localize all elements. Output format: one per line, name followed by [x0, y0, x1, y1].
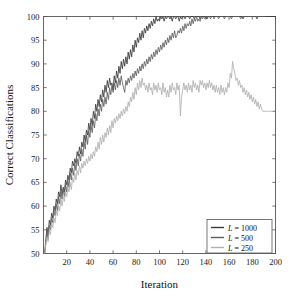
- x-tick-label: 120: [176, 257, 189, 267]
- y-tick-label: 100: [27, 12, 40, 22]
- x-tick-label: 40: [86, 257, 95, 267]
- plot-area: 2040608010012014016018020050556065707580…: [3, 12, 282, 291]
- y-tick-label: 60: [31, 201, 40, 211]
- legend-label-0: L = 1000: [227, 224, 257, 233]
- y-tick-label: 75: [31, 130, 40, 140]
- x-tick-label: 20: [62, 257, 71, 267]
- x-tick-label: 80: [132, 257, 141, 267]
- y-tick-label: 85: [31, 83, 40, 93]
- x-axis-title: Iteration: [141, 278, 179, 290]
- y-tick-label: 50: [31, 249, 40, 259]
- x-tick-label: 100: [153, 257, 166, 267]
- y-tick-label: 55: [31, 225, 40, 235]
- y-axis-title: Correct Classifications: [3, 85, 15, 186]
- chart-figure: 2040608010012014016018020050556065707580…: [0, 0, 303, 306]
- legend: L = 1000L = 500L = 250: [207, 220, 272, 254]
- legend-label-2: L = 250: [227, 244, 253, 253]
- y-tick-label: 65: [31, 177, 40, 187]
- x-tick-label: 140: [200, 257, 213, 267]
- x-tick-label: 60: [109, 257, 118, 267]
- x-tick-label: 180: [246, 257, 259, 267]
- y-tick-label: 95: [31, 35, 40, 45]
- x-tick-label: 200: [269, 257, 282, 267]
- y-tick-label: 90: [31, 59, 40, 69]
- x-tick-label: 160: [223, 257, 236, 267]
- y-tick-label: 80: [31, 106, 40, 116]
- legend-label-1: L = 500: [227, 234, 253, 243]
- y-tick-label: 70: [31, 154, 40, 164]
